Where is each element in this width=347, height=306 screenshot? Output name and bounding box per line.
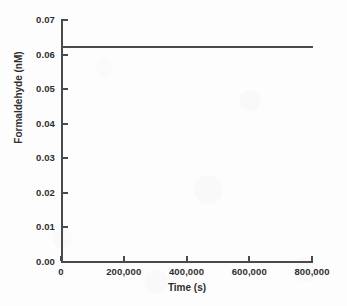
- y-axis-title: Formaldehyde (nM): [13, 18, 24, 178]
- y-axis-tick-label: 0.04: [3, 118, 55, 129]
- y-axis-tick-label: 0.02: [3, 187, 55, 198]
- data-series-segment: [92, 46, 124, 48]
- x-axis-title: Time (s): [61, 282, 313, 293]
- y-axis-tick-label: 0.07: [3, 14, 55, 25]
- x-axis-tick-label: 200,000: [106, 266, 141, 277]
- chart-figure: 0.000.010.020.030.040.050.060.07 0200,00…: [0, 0, 347, 306]
- data-series-segment: [249, 46, 281, 48]
- y-axis-tick-label: 0.06: [3, 49, 55, 60]
- data-series-segment: [61, 46, 93, 48]
- x-axis-tick-label: 800,000: [294, 266, 329, 277]
- data-series-segment: [155, 46, 187, 48]
- data-series-segment: [124, 46, 156, 48]
- x-axis-tick-label: 0: [58, 266, 63, 277]
- y-axis-tick-label: 0.01: [3, 221, 55, 232]
- plot-area: [61, 20, 312, 262]
- y-axis-tick-label: 0.05: [3, 83, 55, 94]
- data-series-segment: [218, 46, 250, 48]
- x-axis-tick-label: 600,000: [232, 266, 267, 277]
- data-series-segment: [281, 46, 313, 48]
- x-axis-tick-label: 400,000: [169, 266, 204, 277]
- y-axis-tick-label: 0.03: [3, 152, 55, 163]
- data-series-segment: [187, 46, 219, 48]
- y-axis-tick-label: 0.00: [3, 256, 55, 267]
